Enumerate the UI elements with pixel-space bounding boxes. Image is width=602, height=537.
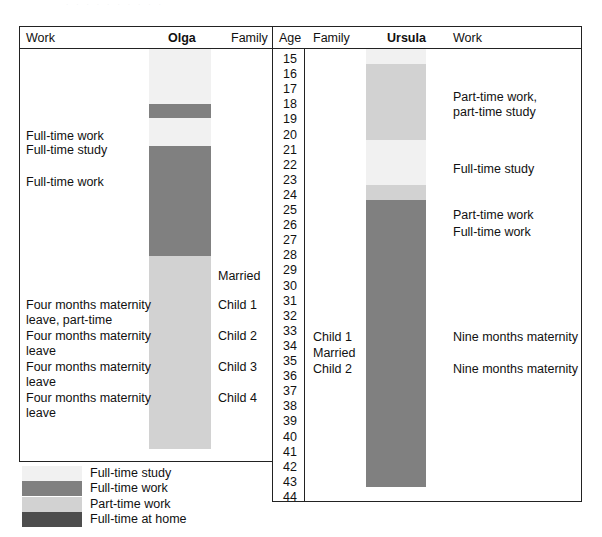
age-tick-label: 24 (279, 188, 297, 202)
legend-item: Full-time at home (22, 512, 262, 527)
ursula-work-entry: Nine months maternity leave (453, 362, 581, 377)
age-tick-label: 15 (279, 52, 297, 66)
age-tick-label: 30 (279, 279, 297, 293)
age-column-divider (304, 49, 305, 501)
ursula-table-body: 1516171819202122232425262728293031323334… (273, 49, 581, 501)
olga-family-entry: Child 2 (218, 329, 257, 344)
olga-work-entry: Full-time work (26, 175, 104, 190)
timeline-segment (149, 118, 211, 146)
timeline-segment (149, 146, 211, 256)
age-tick-label: 37 (279, 384, 297, 398)
age-tick-label: 41 (279, 445, 297, 459)
age-tick-label: 32 (279, 309, 297, 323)
timeline-segment (366, 64, 426, 140)
age-tick-label: 20 (279, 128, 297, 142)
legend-swatch (22, 481, 82, 496)
ursula-table: Age Family Ursula Work 15161718192021222… (272, 26, 582, 502)
cropped-caption-artifact: · · · · · · · · · · (66, 1, 366, 7)
legend-item: Full-time work (22, 481, 262, 496)
legend-item: Part-time work (22, 497, 262, 512)
age-tick-label: 26 (279, 218, 297, 232)
olga-work-entry: Four months maternity leave (26, 360, 151, 389)
legend-label: Full-time at home (90, 512, 187, 527)
olga-col-header-family: Family (231, 31, 268, 45)
age-tick-label: 16 (279, 67, 297, 81)
ursula-work-entry: Nine months maternity leave (453, 330, 581, 345)
olga-table: Work Olga Family Full-time work Full-tim… (19, 26, 273, 462)
age-tick-label: 44 (279, 490, 297, 501)
legend-swatch (22, 497, 82, 512)
age-tick-label: 33 (279, 324, 297, 338)
ursula-family-entry: Child 2 (313, 362, 352, 377)
olga-work-entry: Four months maternity leave (26, 329, 151, 358)
age-tick-label: 17 (279, 82, 297, 96)
legend-label: Full-time study (90, 466, 171, 481)
legend-swatch (22, 466, 82, 481)
legend-label: Full-time work (90, 481, 168, 496)
timeline-segment (149, 49, 211, 104)
timeline-segment (366, 200, 426, 487)
olga-family-entry: Child 4 (218, 391, 257, 406)
olga-family-entry: Child 1 (218, 298, 257, 313)
ursula-col-header-name: Ursula (387, 31, 426, 45)
age-tick-label: 19 (279, 112, 297, 126)
ursula-col-header-age: Age (279, 31, 301, 45)
olga-work-entry: Four months maternity leave, part-time (26, 298, 151, 327)
olga-work-entry: Four months maternity leave (26, 391, 151, 420)
age-tick-label: 21 (279, 143, 297, 157)
timeline-segment (366, 49, 426, 64)
ursula-table-header: Age Family Ursula Work (273, 27, 581, 49)
ursula-family-entry: Married (313, 346, 355, 361)
ursula-work-entry: Full-time work (453, 225, 531, 240)
age-tick-label: 27 (279, 233, 297, 247)
ursula-work-entry: Part-time work (453, 208, 534, 223)
ursula-timeline-bar (366, 49, 426, 501)
legend: Full-time studyFull-time workPart-time w… (22, 466, 262, 528)
age-tick-label: 28 (279, 248, 297, 262)
age-tick-label: 23 (279, 173, 297, 187)
age-tick-label: 22 (279, 158, 297, 172)
age-tick-label: 38 (279, 399, 297, 413)
olga-table-header: Work Olga Family (20, 27, 272, 49)
age-tick-label: 25 (279, 203, 297, 217)
ursula-work-entry: Part-time work, part-time study (453, 90, 537, 119)
ursula-col-header-work: Work (453, 31, 482, 45)
timeline-segment (366, 185, 426, 200)
legend-swatch (22, 512, 82, 527)
timeline-segment (149, 104, 211, 118)
age-tick-label: 35 (279, 354, 297, 368)
age-tick-label: 39 (279, 414, 297, 428)
age-tick-label: 42 (279, 460, 297, 474)
ursula-col-header-family: Family (313, 31, 350, 45)
age-tick-label: 34 (279, 339, 297, 353)
age-tick-label: 40 (279, 430, 297, 444)
ursula-family-entry: Child 1 (313, 330, 352, 345)
figure-canvas: · · · · · · · · · · Work Olga Family Ful… (0, 0, 602, 537)
age-tick-label: 29 (279, 263, 297, 277)
olga-timeline-bar (149, 49, 211, 461)
olga-work-entry: Full-time work (26, 129, 104, 144)
age-tick-label: 36 (279, 369, 297, 383)
legend-label: Part-time work (90, 497, 171, 512)
olga-work-entry: Full-time study (26, 143, 107, 158)
age-tick-label: 43 (279, 475, 297, 489)
timeline-segment (149, 256, 211, 449)
age-tick-label: 31 (279, 294, 297, 308)
age-tick-label: 18 (279, 97, 297, 111)
legend-item: Full-time study (22, 466, 262, 481)
olga-table-body: Full-time work Full-time study Full-time… (20, 49, 272, 461)
olga-col-header-name: Olga (168, 31, 196, 45)
olga-family-entry: Married (218, 269, 260, 284)
timeline-segment (366, 140, 426, 185)
ursula-work-entry: Full-time study (453, 162, 534, 177)
olga-family-entry: Child 3 (218, 360, 257, 375)
olga-col-header-work: Work (26, 31, 55, 45)
